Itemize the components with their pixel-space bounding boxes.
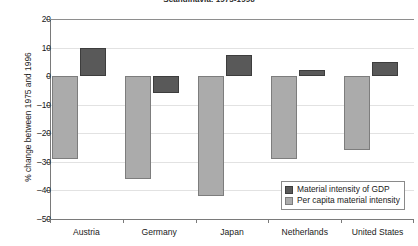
legend-swatch-icon (285, 197, 293, 205)
zero-baseline (50, 19, 414, 20)
bar-united-states-series-2 (344, 76, 370, 150)
bar-germany-series-2 (125, 76, 151, 179)
x-tick-mark (341, 219, 342, 223)
legend-label: Per capita material intensity (297, 195, 400, 206)
x-label-netherlands: Netherlands (268, 227, 341, 237)
gridline (51, 162, 414, 163)
y-tick-label: –30 (10, 157, 56, 167)
x-tick-mark (123, 219, 124, 223)
legend-item: Material intensity of GDP (285, 184, 400, 195)
x-label-germany: Germany (123, 227, 196, 237)
chart-title: Scandinavia, 1975-1996 (0, 0, 418, 2)
legend-item: Per capita material intensity (285, 195, 400, 206)
bar-netherlands-series-2 (271, 76, 297, 159)
bar-germany-series-1 (153, 76, 179, 93)
x-label-united-states: United States (341, 227, 414, 237)
y-tick-label: –10 (10, 100, 56, 110)
x-tick-mark (50, 219, 51, 223)
y-axis-title: % change between 1975 and 1996 (23, 37, 33, 197)
chart-figure: Scandinavia, 1975-1996 % change between … (0, 0, 418, 246)
x-axis-line (50, 219, 414, 220)
y-tick-label: 10 (10, 43, 56, 53)
y-tick-label: 0 (10, 71, 56, 81)
x-label-austria: Austria (50, 227, 123, 237)
y-tick-label: –40 (10, 185, 56, 195)
legend-label: Material intensity of GDP (297, 184, 390, 195)
chart-legend: Material intensity of GDPPer capita mate… (281, 181, 405, 210)
x-label-japan: Japan (196, 227, 269, 237)
y-tick-label: –20 (10, 128, 56, 138)
bar-united-states-series-1 (372, 62, 398, 76)
x-tick-mark (268, 219, 269, 223)
bar-austria-series-2 (52, 76, 78, 159)
x-tick-mark (413, 219, 414, 223)
x-tick-mark (196, 219, 197, 223)
bar-japan-series-1 (226, 55, 252, 76)
bar-japan-series-2 (198, 76, 224, 196)
legend-swatch-icon (285, 186, 293, 194)
bar-austria-series-1 (80, 48, 106, 77)
bar-netherlands-series-1 (299, 70, 325, 76)
